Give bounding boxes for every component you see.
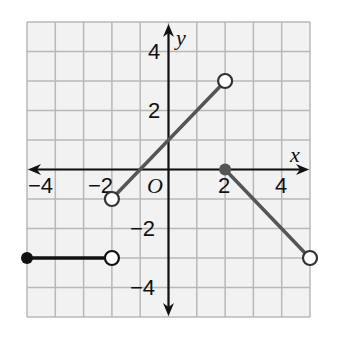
x-tick-label-4: 4 — [275, 173, 287, 198]
y-tick-label-2: 2 — [148, 98, 160, 123]
piecewise-graph: y x O −4 −2 2 4 4 2 −2 −4 — [0, 0, 338, 343]
x-tick-label-neg4: −4 — [28, 173, 53, 198]
open-point-icon — [218, 74, 232, 88]
open-point-icon — [105, 251, 119, 265]
x-axis-label: x — [289, 142, 300, 167]
y-axis-label: y — [174, 25, 186, 50]
closed-point-icon — [21, 252, 33, 264]
open-point-icon — [105, 192, 119, 206]
y-tick-label-neg2: −2 — [130, 216, 155, 241]
origin-label: O — [147, 173, 163, 198]
closed-point-icon — [219, 164, 231, 176]
y-tick-label-neg4: −4 — [130, 275, 155, 300]
y-tick-label-4: 4 — [148, 39, 160, 64]
open-point-icon — [303, 251, 317, 265]
x-tick-label-2: 2 — [218, 173, 230, 198]
